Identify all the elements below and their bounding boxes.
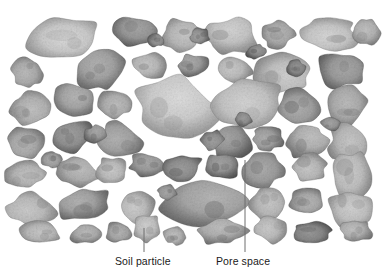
particle-mottle xyxy=(139,64,149,70)
particle-mottle xyxy=(67,37,82,49)
particle-mottle xyxy=(217,235,228,241)
soil-particle-field xyxy=(0,0,388,277)
particle-mottle xyxy=(91,133,97,140)
particle-mottle xyxy=(146,227,153,235)
particle-mottle xyxy=(49,155,57,161)
particle-mottle xyxy=(212,163,219,172)
particle-mottle xyxy=(170,235,178,240)
label-pore-space: Pore space xyxy=(216,255,270,267)
particle-mottle xyxy=(101,165,113,172)
soil-particle xyxy=(206,155,239,179)
particle-body xyxy=(294,221,332,242)
particle-mottle xyxy=(251,49,257,54)
label-soil-particle: Soil particle xyxy=(115,255,171,267)
particle-mottle xyxy=(355,227,362,234)
particle-mottle xyxy=(296,139,307,153)
particle-mottle xyxy=(125,21,138,32)
particle-mottle xyxy=(293,66,300,71)
particle-mottle xyxy=(338,194,347,208)
particle-mottle xyxy=(231,140,241,147)
particle-mottle xyxy=(110,104,118,116)
soil-particle xyxy=(289,188,323,213)
particle-mottle xyxy=(65,132,74,144)
particle-mottle xyxy=(150,162,159,168)
particle-mottle xyxy=(150,97,168,118)
particle-mottle xyxy=(212,30,229,40)
soil-structure-figure: Soil particle Pore space xyxy=(0,0,388,277)
particle-mottle xyxy=(154,38,160,42)
particle-mottle xyxy=(134,199,142,206)
particle-mottle xyxy=(81,233,92,238)
particle-mottle xyxy=(78,95,87,101)
particle-mottle xyxy=(42,230,53,235)
particle-mottle xyxy=(13,106,28,119)
particle-mottle xyxy=(260,194,269,205)
particle-mottle xyxy=(299,97,309,108)
particle-mottle xyxy=(297,199,311,207)
particle-mottle xyxy=(121,140,135,151)
particle-mottle xyxy=(85,72,95,80)
soil-particle xyxy=(340,221,373,241)
particle-mottle xyxy=(21,135,37,144)
particle-mottle xyxy=(224,225,240,233)
particle-mottle xyxy=(357,32,368,41)
particle-mottle xyxy=(226,61,234,69)
particle-mottle xyxy=(204,201,224,219)
particle-mottle xyxy=(112,226,119,234)
particle-mottle xyxy=(169,168,183,177)
particle-mottle xyxy=(179,29,190,35)
particle-mottle xyxy=(196,34,200,39)
particle-mottle xyxy=(261,140,271,146)
particle-mottle xyxy=(339,61,349,73)
particle-mottle xyxy=(326,35,346,43)
particle-mottle xyxy=(271,193,278,201)
particle-mottle xyxy=(239,120,243,125)
particle-mottle xyxy=(352,200,365,209)
particle-mottle xyxy=(324,124,329,127)
particle-mottle xyxy=(200,32,207,37)
particle-mottle xyxy=(300,227,316,232)
particle-mottle xyxy=(137,158,146,165)
particle-mottle xyxy=(73,204,93,218)
particle-mottle xyxy=(164,115,183,130)
soil-particle xyxy=(294,221,332,242)
particle-mottle xyxy=(207,136,212,141)
particle-mottle xyxy=(26,63,33,69)
particle-mottle xyxy=(344,108,360,116)
particle-mottle xyxy=(221,163,230,170)
particle-mottle xyxy=(186,63,193,70)
particle-mottle xyxy=(250,161,263,174)
particle-mottle xyxy=(351,232,357,240)
particle-mottle xyxy=(267,27,281,32)
particle-mottle xyxy=(22,172,40,179)
particle-mottle xyxy=(94,63,105,73)
particle-mottle xyxy=(284,101,299,114)
particle-mottle xyxy=(12,177,21,186)
particle-mottle xyxy=(62,163,80,171)
particle-mottle xyxy=(274,221,284,230)
particle-mottle xyxy=(336,159,353,176)
particle-mottle xyxy=(167,189,172,193)
